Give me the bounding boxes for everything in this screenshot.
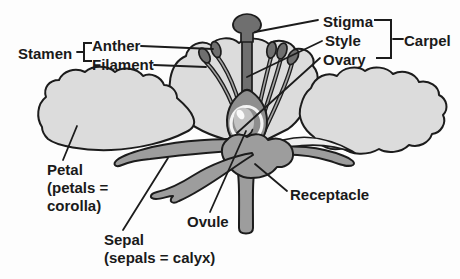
stigma-shape	[233, 14, 261, 42]
label-anther: Anther	[92, 37, 140, 55]
label-petal-line-2: (petals =	[47, 179, 108, 197]
label-stigma: Stigma	[323, 13, 373, 31]
label-filament: Filament	[92, 56, 154, 74]
label-carpel: Carpel	[404, 32, 451, 50]
flower-anatomy-diagram: Stamen Anther Filament Stigma Style Ovar…	[0, 0, 460, 279]
label-style: Style	[325, 32, 361, 50]
label-petal-line-3: corolla)	[47, 197, 108, 215]
flower-illustration	[0, 0, 460, 279]
stigma-leader-line	[255, 20, 318, 32]
label-petal-line-1: Petal	[47, 161, 108, 179]
style-shape	[242, 38, 252, 96]
label-ovule: Ovule	[187, 213, 229, 231]
carpel-bracket	[374, 20, 391, 58]
receptacle-shape	[222, 134, 293, 178]
label-sepal-line-1: Sepal	[104, 231, 215, 249]
label-stamen: Stamen	[18, 45, 72, 63]
label-petal-block: Petal (petals = corolla)	[47, 161, 108, 215]
label-ovary: Ovary	[323, 51, 366, 69]
label-sepal-block: Sepal (sepals = calyx)	[104, 231, 215, 267]
label-receptacle: Receptacle	[290, 186, 369, 204]
stamen-bracket	[84, 43, 92, 61]
label-sepal-line-2: (sepals = calyx)	[104, 249, 215, 267]
